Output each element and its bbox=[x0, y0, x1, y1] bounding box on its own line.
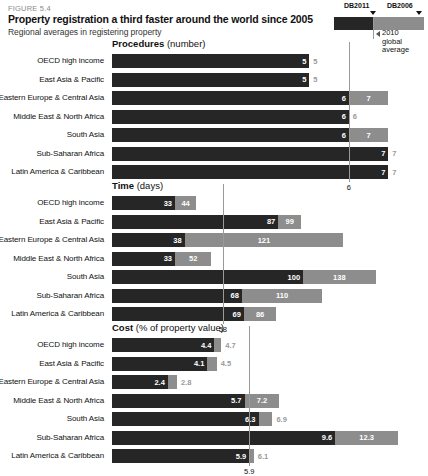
reference-line-global-average bbox=[223, 184, 224, 324]
bar-value-db2011: 33 bbox=[159, 199, 172, 208]
row-label: South Asia bbox=[0, 272, 104, 281]
bar-value-db2011: 7 bbox=[372, 149, 385, 158]
row-label: Latin America & Caribbean bbox=[0, 167, 104, 176]
panel-title-time: Time (days) bbox=[112, 180, 163, 191]
bar-track: 3344 bbox=[112, 196, 196, 210]
legend: DB2011 DB2006 2010 global average bbox=[330, 2, 426, 54]
figure-title: Property registration a third faster aro… bbox=[8, 13, 313, 25]
bar-db2011 bbox=[112, 412, 259, 426]
panel-rows: OECD high income55East Asia & Pacific55E… bbox=[0, 54, 428, 184]
row-label: Eastern Europe & Central Asia bbox=[0, 235, 104, 244]
legend-swatch-dark bbox=[334, 17, 374, 30]
bar-value-db2006: 7 bbox=[366, 94, 370, 103]
bar-track: 67 bbox=[112, 91, 388, 105]
bar-value-db2006: 6 bbox=[353, 112, 357, 121]
bar-db2011 bbox=[112, 54, 309, 68]
legend-pointer-db2011-icon bbox=[370, 11, 376, 15]
bar-track: 55 bbox=[112, 54, 309, 68]
bar-db2011 bbox=[112, 73, 309, 87]
bar-value-db2011: 87 bbox=[262, 217, 275, 226]
bar-value-db2011: 2.4 bbox=[152, 378, 165, 387]
bar-value-db2006: 12.3 bbox=[359, 433, 374, 442]
chart-row: OECD high income4.44.7 bbox=[0, 338, 428, 352]
row-label: Eastern Europe & Central Asia bbox=[0, 377, 104, 386]
bar-value-db2011: 5 bbox=[293, 75, 306, 84]
figure-subtitle: Regional averages in registering propert… bbox=[8, 27, 161, 37]
chart-row: Eastern Europe & Central Asia38121 bbox=[0, 233, 428, 247]
chart-row: East Asia & Pacific55 bbox=[0, 73, 428, 87]
bar-value-db2011: 5 bbox=[293, 57, 306, 66]
bar-value-db2006: 4.7 bbox=[225, 341, 235, 350]
row-label: South Asia bbox=[0, 414, 104, 423]
row-label: Middle East & North Africa bbox=[0, 254, 104, 263]
legend-average-note: 2010 global average bbox=[382, 29, 409, 55]
bar-track: 5.96.1 bbox=[112, 449, 254, 463]
bar-track: 100138 bbox=[112, 270, 376, 284]
reference-line-label: 5.9 bbox=[244, 467, 254, 476]
panel-title-unit: (days) bbox=[134, 180, 163, 191]
bar-value-db2006: 2.8 bbox=[181, 378, 191, 387]
chart-row: South Asia67 bbox=[0, 128, 428, 142]
bar-track: 77 bbox=[112, 165, 388, 179]
bar-db2011 bbox=[112, 394, 245, 408]
bar-value-db2011: 6 bbox=[333, 112, 346, 121]
chart-row: East Asia & Pacific8799 bbox=[0, 215, 428, 229]
bar-value-db2006: 5 bbox=[313, 57, 317, 66]
chart-row: OECD high income55 bbox=[0, 54, 428, 68]
bar-track: 2.42.8 bbox=[112, 375, 177, 389]
panel-title-unit: (% of property value) bbox=[133, 322, 224, 333]
bar-value-db2006: 52 bbox=[189, 254, 197, 263]
bar-value-db2006: 121 bbox=[258, 236, 271, 245]
reference-line-label: 6 bbox=[347, 183, 351, 192]
panel-rows: OECD high income3344East Asia & Pacific8… bbox=[0, 196, 428, 326]
legend-pointer-db2006-icon bbox=[416, 11, 422, 15]
chart-row: East Asia & Pacific4.14.5 bbox=[0, 357, 428, 371]
bar-value-db2006: 7 bbox=[366, 131, 370, 140]
bar-value-db2006: 4.5 bbox=[221, 359, 231, 368]
legend-label-db2006: DB2006 bbox=[387, 2, 413, 9]
chart-row: Latin America & Caribbean6986 bbox=[0, 307, 428, 321]
row-label: Latin America & Caribbean bbox=[0, 451, 104, 460]
reference-line-global-average bbox=[249, 326, 250, 466]
chart-row: Sub-Saharan Africa77 bbox=[0, 147, 428, 161]
bar-value-db2006: 6.9 bbox=[276, 415, 286, 424]
bar-value-db2011: 33 bbox=[159, 254, 172, 263]
bar-track: 4.44.7 bbox=[112, 338, 221, 352]
panel-title-text: Time bbox=[112, 180, 134, 191]
chart-row: Middle East & North Africa3352 bbox=[0, 252, 428, 266]
panel-title-procedures: Procedures (number) bbox=[112, 38, 205, 49]
legend-arrow-icon bbox=[376, 31, 380, 37]
bar-db2011 bbox=[112, 307, 244, 321]
row-label: Middle East & North Africa bbox=[0, 112, 104, 121]
figure-number: FIGURE 5.4 bbox=[8, 4, 51, 13]
row-label: East Asia & Pacific bbox=[0, 359, 104, 368]
bar-track: 8799 bbox=[112, 215, 301, 229]
row-label: Eastern Europe & Central Asia bbox=[0, 93, 104, 102]
bar-value-db2011: 38 bbox=[169, 236, 182, 245]
chart-row: South Asia6.36.9 bbox=[0, 412, 428, 426]
bar-value-db2011: 4.1 bbox=[191, 359, 204, 368]
row-label: Sub-Saharan Africa bbox=[0, 291, 104, 300]
bar-value-db2011: 68 bbox=[226, 291, 239, 300]
row-label: OECD high income bbox=[0, 340, 104, 349]
bar-value-db2006: 6.1 bbox=[258, 452, 268, 461]
row-label: Latin America & Caribbean bbox=[0, 309, 104, 318]
bar-value-db2011: 100 bbox=[287, 273, 300, 282]
bar-track: 9.612.3 bbox=[112, 431, 398, 445]
bar-value-db2011: 4.4 bbox=[198, 341, 211, 350]
bar-value-db2006: 7.2 bbox=[257, 396, 267, 405]
chart-row: Middle East & North Africa5.77.2 bbox=[0, 394, 428, 408]
bar-db2011 bbox=[112, 110, 349, 124]
chart-row: Sub-Saharan Africa9.612.3 bbox=[0, 431, 428, 445]
row-label: East Asia & Pacific bbox=[0, 75, 104, 84]
row-label: Sub-Saharan Africa bbox=[0, 149, 104, 158]
bar-track: 38121 bbox=[112, 233, 343, 247]
bar-track: 3352 bbox=[112, 252, 211, 266]
bar-value-db2011: 69 bbox=[228, 310, 241, 319]
bar-value-db2006: 7 bbox=[392, 168, 396, 177]
bar-value-db2011: 6 bbox=[333, 94, 346, 103]
bar-db2011 bbox=[112, 165, 388, 179]
chart-row: Sub-Saharan Africa68110 bbox=[0, 289, 428, 303]
bar-db2011 bbox=[112, 147, 388, 161]
